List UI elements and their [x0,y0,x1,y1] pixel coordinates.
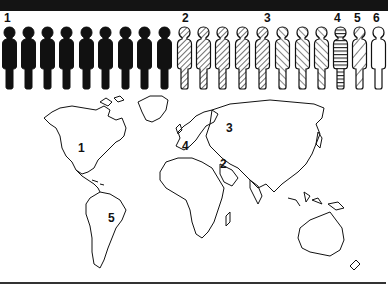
north-america-outline [44,106,126,174]
south-america-outline [86,192,126,268]
new-zealand-outline [350,260,360,270]
region-label-1: 1 [78,141,85,155]
population-figures [0,24,388,90]
header-bar [0,0,388,11]
arctic-islands [100,96,124,106]
new-guinea-outline [328,202,344,210]
region-label-2: 2 [220,157,227,171]
asia-outline [206,100,324,192]
group-label-5: 5 [354,12,361,24]
group-5-figure [353,27,367,89]
japan-outline [316,132,322,148]
greenland-outline [138,96,168,122]
group-2-figure [178,27,192,89]
indonesia-outline [288,192,322,206]
group-label-3: 3 [264,12,271,24]
group-1-figures [3,27,172,89]
group-4-figure [334,27,348,89]
india-outline [250,180,262,204]
bottom-rule [0,282,386,284]
madagascar-outline [226,212,230,226]
australia-outline [298,212,344,256]
group-label-1: 1 [4,12,11,24]
group-label-6: 6 [373,12,380,24]
group-6-figure [372,27,386,89]
region-label-4: 4 [182,139,189,153]
group-label-4: 4 [334,12,341,24]
region-label-5: 5 [108,211,115,225]
group-3-figures [197,27,329,89]
group-label-2: 2 [182,12,189,24]
world-map: 1 2 3 4 5 [0,88,388,282]
region-label-3: 3 [226,121,233,135]
africa-outline [160,158,224,238]
